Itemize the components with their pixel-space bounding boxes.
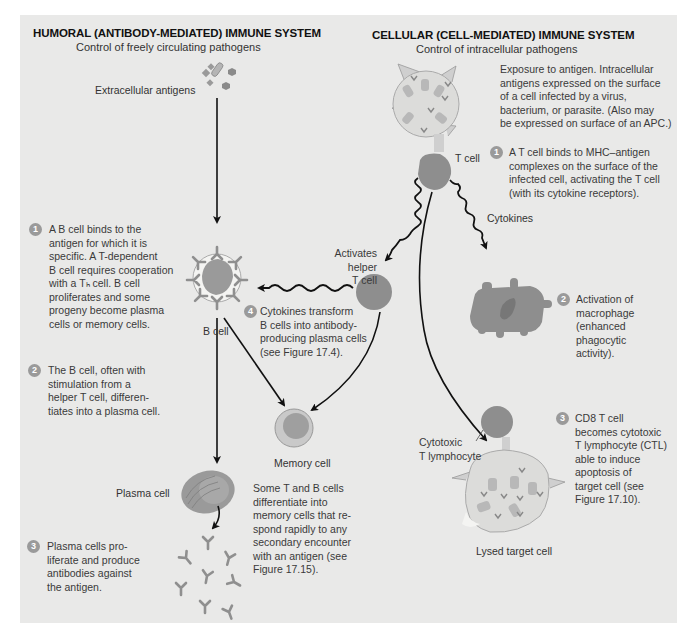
cellular-step-1-badge: 1 — [490, 146, 503, 159]
t-cell-label: T cell — [455, 152, 480, 164]
humoral-step-4-text: Cytokines transformB cells into antibody… — [260, 305, 367, 359]
humoral-step-1-text: A B cell binds to theantigen for which i… — [49, 223, 173, 331]
humoral-title: HUMORAL (ANTIBODY-MEDIATED) IMMUNE SYSTE… — [33, 27, 321, 39]
antibodies-icon — [176, 537, 243, 620]
memory-cell-label: Memory cell — [274, 457, 331, 469]
cellular-step-1-text: A T cell binds to MHC–antigencomplexes o… — [509, 146, 660, 200]
cytotoxic-t-lymphocyte-icon — [476, 406, 513, 451]
humoral-step-3-badge: 3 — [27, 540, 40, 553]
t-cell-icon — [418, 154, 451, 190]
humoral-step-2-text: The B cell, often withstimulation from a… — [48, 364, 160, 418]
cellular-step-2-text: Activation ofmacrophage(enhancedphagocyt… — [576, 293, 634, 361]
humoral-step-3-text: Plasma cells pro-liferate and produceant… — [47, 540, 140, 594]
memory-cell-note: Some T and B cellsdifferentiate intomemo… — [253, 482, 351, 577]
b-cell-icon — [187, 247, 247, 309]
plasma-cell-label: Plasma cell — [116, 487, 170, 499]
cellular-step-3-text: CD8 T cellbecomes cytotoxicT lymphocyte … — [575, 412, 667, 507]
cellular-title: CELLULAR (CELL-MEDIATED) IMMUNE SYSTEM — [372, 29, 634, 41]
lysed-target-cell-label: Lysed target cell — [476, 545, 552, 557]
humoral-subtitle: Control of freely circulating pathogens — [76, 41, 261, 53]
cellular-subtitle: Control of intracellular pathogens — [416, 43, 577, 55]
humoral-step-4-badge: 4 — [244, 305, 257, 318]
extracellular-antigens-label: Extracellular antigens — [95, 84, 195, 96]
cellular-step-3-badge: 3 — [556, 412, 569, 425]
plasma-cell-icon — [176, 465, 239, 520]
activates-helper-label: ActivateshelperT cell — [327, 247, 377, 288]
exposure-note: Exposure to antigen. Intracellularantige… — [500, 63, 672, 131]
cellular-step-2-badge: 2 — [557, 293, 570, 306]
humoral-step-1-badge: 1 — [29, 223, 42, 236]
macrophage-icon — [470, 278, 552, 338]
memory-cell-icon — [275, 409, 313, 447]
extracellular-antigens-icon — [202, 62, 236, 90]
humoral-step-2-badge: 2 — [28, 364, 41, 377]
ctl-label: CytotoxicT lymphocyte — [419, 436, 481, 463]
b-cell-label: B cell — [203, 325, 229, 337]
cytokines-label: Cytokines — [487, 212, 533, 224]
infected-cell-icon — [392, 64, 459, 152]
